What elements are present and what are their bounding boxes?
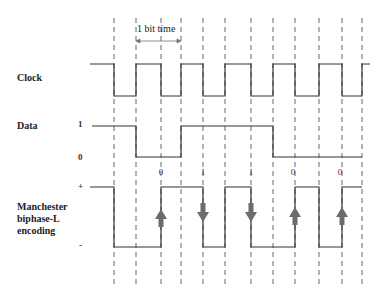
bit-value-label: 1 <box>201 167 206 177</box>
timing-diagram-svg <box>0 0 383 301</box>
arrow-down-icon <box>245 203 257 222</box>
arrow-up-icon <box>336 207 348 225</box>
data-waveform <box>92 126 362 157</box>
data-level-low: 0 <box>78 152 83 162</box>
bit-value-label: 0 <box>338 167 343 177</box>
bit-time-dimension <box>136 39 181 43</box>
data-level-high: 1 <box>78 119 83 129</box>
arrow-up-icon <box>289 207 301 225</box>
manchester-encoding-diagram: 1 bit time Clock Data Manchester biphase… <box>0 0 383 301</box>
manchester-label-line-2: biphase-L <box>17 213 68 225</box>
manchester-label: Manchester biphase-L encoding <box>17 201 68 237</box>
bit-value-label: 0 <box>291 167 296 177</box>
clock-label: Clock <box>17 72 42 84</box>
manchester-level-high: + <box>78 181 83 191</box>
clock-waveform <box>90 64 370 96</box>
arrow-up-icon <box>155 209 167 227</box>
bit-value-label: 1 <box>249 167 254 177</box>
manchester-label-line-3: encoding <box>17 225 68 237</box>
bit-value-label: 0 <box>159 167 164 177</box>
data-label: Data <box>17 120 38 132</box>
arrow-down-icon <box>197 203 209 222</box>
manchester-waveform <box>90 187 362 247</box>
manchester-level-low: - <box>79 240 82 250</box>
bit-time-label: 1 bit time <box>137 23 175 34</box>
manchester-label-line-1: Manchester <box>17 201 68 213</box>
